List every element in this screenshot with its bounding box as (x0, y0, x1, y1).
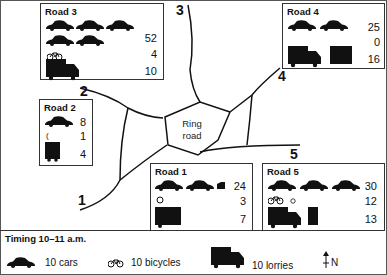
timing-label: Timing 10–11 a.m. (5, 233, 86, 244)
road-2-title: Road 2 (44, 102, 76, 113)
road-4-lorries-count: 16 (358, 53, 380, 65)
ring-road-label-line1: Ring (172, 118, 212, 130)
road-4-bicycles-count: 0 (358, 36, 380, 48)
road-2-box: Road 2 ( 8 1 4 (39, 99, 93, 166)
lorry-icon (45, 142, 63, 164)
north-arrow-icon (322, 251, 330, 269)
legend-bicycles-label: 10 bicycles (131, 257, 180, 268)
road-2-cars-count: 8 (64, 116, 86, 128)
north-label: N (331, 257, 338, 268)
road-3-box: Road 3 52 4 10 (40, 3, 164, 80)
road-3-bicycles-count: 4 (135, 48, 157, 60)
road-4-box: Road 4 25 0 16 (282, 3, 385, 69)
road-marker-5: 5 (290, 146, 298, 162)
ring-road-label-line2: road (172, 130, 212, 142)
road-5-lorries-count: 13 (355, 213, 377, 225)
road-3-title: Road 3 (45, 6, 77, 17)
legend-lorries-label: 10 lorries (252, 260, 293, 271)
road-1-cars-count: 24 (224, 180, 246, 192)
lorry-icon (155, 207, 183, 229)
car-icon (268, 180, 363, 192)
road-2-bicycles-count: 1 (64, 130, 86, 142)
car-icon (46, 20, 136, 48)
road-5-box: Road 5 30 12 13 (262, 163, 385, 231)
bicycle-icon (108, 258, 126, 270)
lorry-icon (211, 247, 247, 271)
bicycle-icon (268, 195, 298, 205)
road-1-bicycles-count: 3 (224, 195, 246, 207)
road-marker-4: 4 (278, 68, 286, 84)
lorry-icon (268, 207, 323, 229)
road-5-bicycles-count: 12 (355, 195, 377, 207)
road-1-lorries-count: 7 (224, 213, 246, 225)
road-marker-1: 1 (78, 192, 86, 208)
road-5-cars-count: 30 (355, 180, 377, 192)
car-icon (155, 180, 227, 192)
road-3-cars-count: 52 (135, 32, 157, 44)
road-1-title: Road 1 (155, 166, 187, 177)
ring-road-label: Ring road (172, 118, 212, 142)
bicycle-icon: ( (46, 131, 49, 140)
road-4-cars-count: 25 (358, 21, 380, 33)
legend-cars-label: 10 cars (45, 257, 78, 268)
lorry-icon (46, 59, 82, 81)
car-icon (7, 257, 39, 269)
legend: Timing 10–11 a.m. 10 cars 10 bicycles 10… (0, 230, 385, 274)
road-3-lorries-count: 10 (135, 65, 157, 77)
bicycle-icon (156, 195, 172, 205)
road-4-title: Road 4 (287, 6, 319, 17)
car-icon (288, 20, 363, 32)
road-5-title: Road 5 (267, 166, 299, 177)
road-1-box: Road 1 24 3 7 (150, 163, 253, 231)
lorry-icon (288, 46, 358, 68)
road-marker-2: 2 (80, 83, 88, 99)
road-2-lorries-count: 4 (64, 148, 86, 160)
road-marker-3: 3 (176, 2, 184, 18)
